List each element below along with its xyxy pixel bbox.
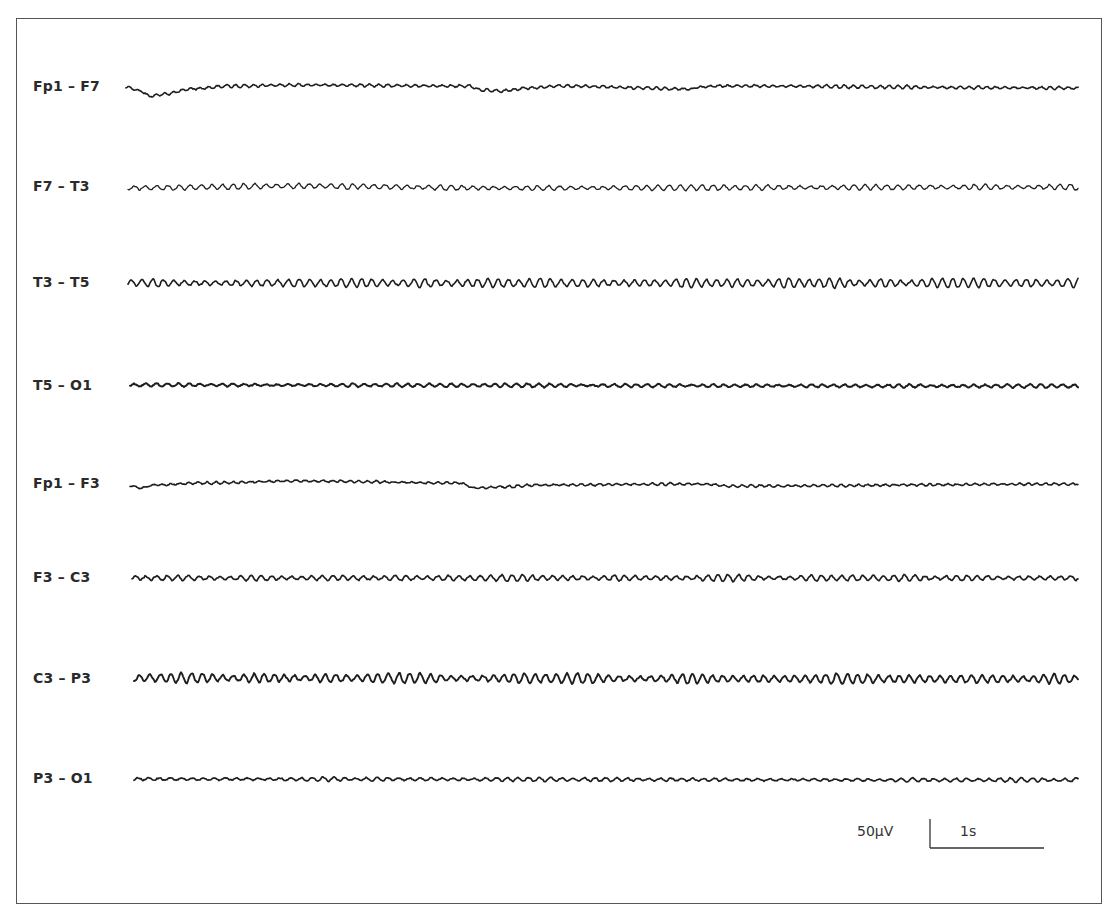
channel-label-t5-o1: T5 – O1 bbox=[33, 377, 92, 393]
channel-label-f3-c3: F3 – C3 bbox=[33, 569, 90, 585]
eeg-trace-t3-t5 bbox=[128, 278, 1078, 288]
channel-label-c3-p3: C3 – P3 bbox=[33, 670, 91, 686]
eeg-trace-fp1-f3 bbox=[130, 480, 1078, 489]
eeg-trace-c3-p3 bbox=[134, 672, 1078, 684]
channel-label-t3-t5: T3 – T5 bbox=[33, 274, 90, 290]
eeg-trace-t5-o1 bbox=[130, 383, 1078, 388]
eeg-trace-f7-t3 bbox=[128, 183, 1078, 191]
eeg-trace-f3-c3 bbox=[132, 574, 1078, 582]
channel-label-fp1-f7: Fp1 – F7 bbox=[33, 78, 100, 94]
eeg-traces bbox=[0, 0, 1113, 923]
scale-amplitude-label: 50µV bbox=[857, 823, 893, 839]
trace-group bbox=[126, 83, 1078, 782]
scale-time-label: 1s bbox=[960, 823, 976, 839]
channel-label-p3-o1: P3 – O1 bbox=[33, 770, 93, 786]
channel-label-fp1-f3: Fp1 – F3 bbox=[33, 475, 100, 491]
eeg-trace-p3-o1 bbox=[134, 777, 1078, 783]
channel-label-f7-t3: F7 – T3 bbox=[33, 178, 90, 194]
eeg-trace-fp1-f7 bbox=[126, 83, 1078, 97]
